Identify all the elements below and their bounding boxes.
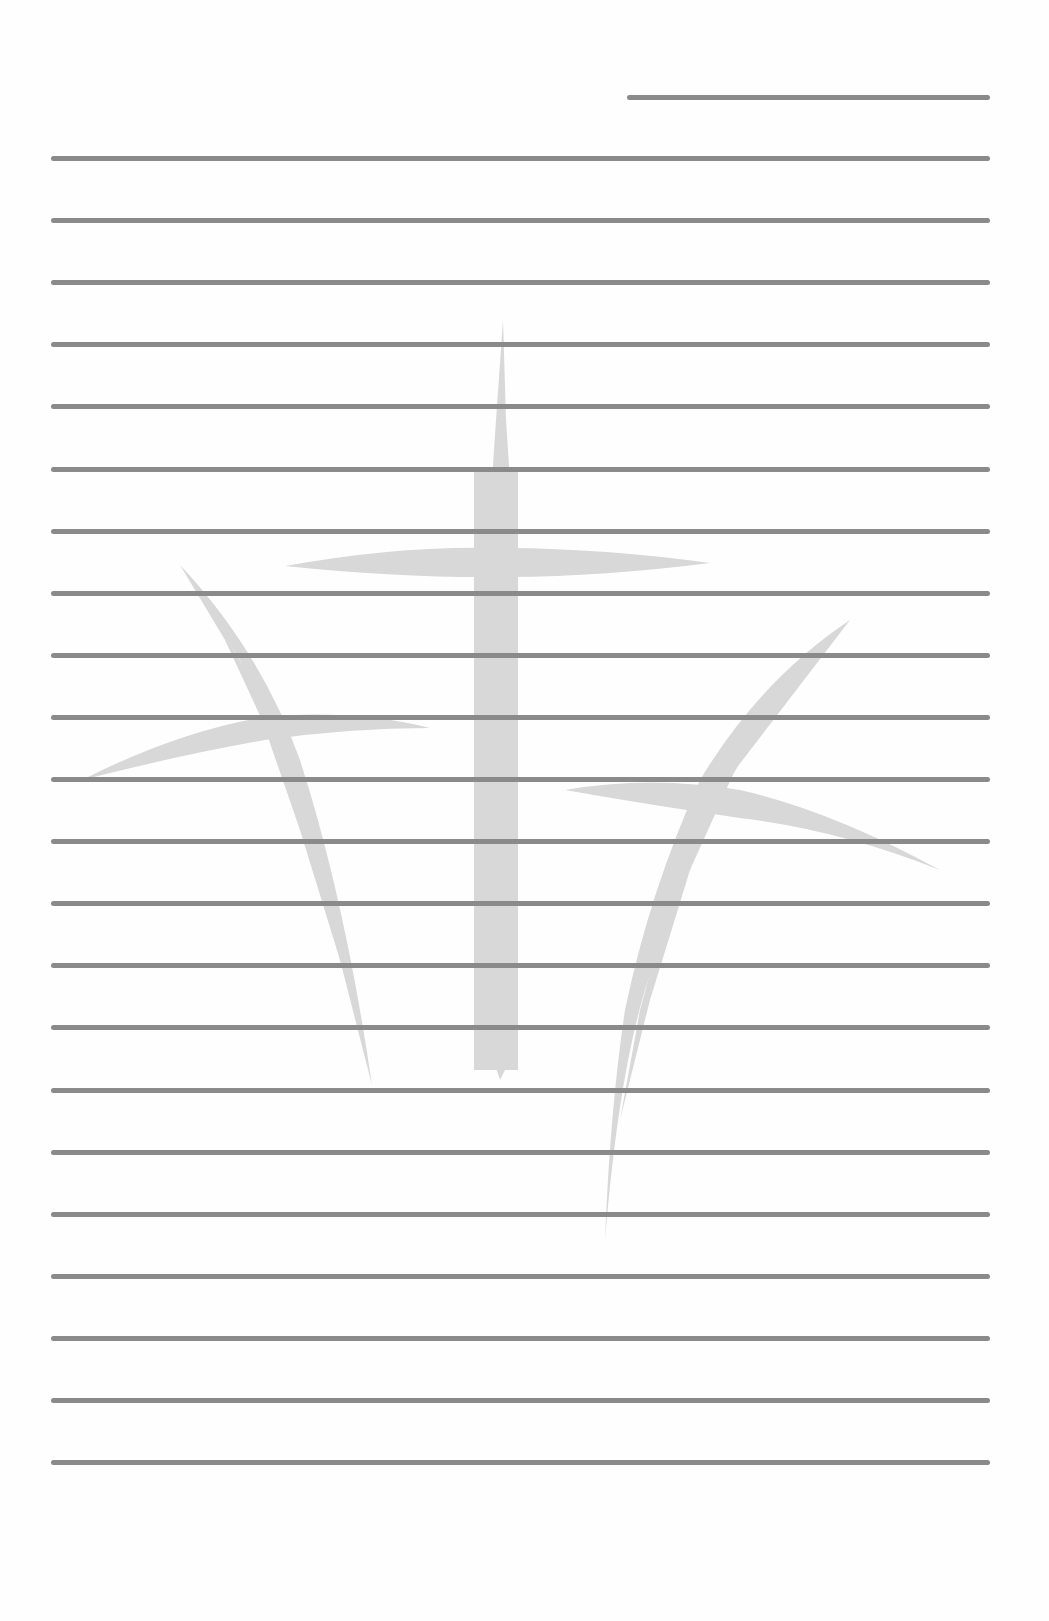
ruled-line — [51, 280, 990, 285]
ruled-line — [51, 529, 990, 534]
ruled-line — [51, 1212, 990, 1217]
ruled-line — [51, 156, 990, 161]
lined-paper-page — [0, 0, 1049, 1621]
ruled-line — [51, 653, 990, 658]
header-short-line — [627, 95, 990, 100]
ruled-line — [51, 963, 990, 968]
three-crosses-icon — [0, 0, 1049, 1621]
ruled-line — [51, 1398, 990, 1403]
ruled-line — [51, 1088, 990, 1093]
ruled-line — [51, 839, 990, 844]
ruled-line — [51, 1460, 990, 1465]
ruled-line — [51, 467, 990, 472]
ruled-line — [51, 1150, 990, 1155]
ruled-line — [51, 342, 990, 347]
ruled-line — [51, 591, 990, 596]
ruled-line — [51, 1336, 990, 1341]
ruled-line — [51, 1274, 990, 1279]
ruled-line — [51, 901, 990, 906]
ruled-line — [51, 777, 990, 782]
ruled-line — [51, 1025, 990, 1030]
ruled-line — [51, 218, 990, 223]
ruled-line — [51, 715, 990, 720]
ruled-line — [51, 404, 990, 409]
